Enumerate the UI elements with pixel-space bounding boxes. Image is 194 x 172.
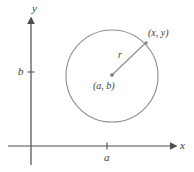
y-tick-b-label: b: [18, 66, 24, 77]
center-point-marker: [110, 73, 114, 77]
x-axis-arrowhead: [170, 142, 178, 150]
radius-segment: [112, 44, 145, 76]
y-axis-label: y: [32, 3, 37, 14]
center-point-label: (a, b): [93, 81, 115, 91]
circle-equation-figure: y x b a r (a, b) (x, y): [0, 0, 194, 172]
x-axis-label: x: [180, 140, 185, 151]
radius-label: r: [118, 50, 122, 60]
x-tick-a-label: a: [104, 152, 110, 163]
circle-point-label: (x, y): [148, 28, 169, 38]
circle-point-marker: [144, 41, 148, 45]
y-axis-arrowhead: [27, 17, 35, 25]
